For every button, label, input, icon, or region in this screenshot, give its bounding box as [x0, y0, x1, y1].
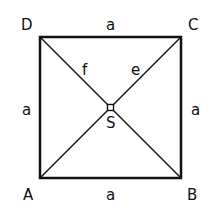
- square-diagram: D C A B a a a a f e S: [0, 0, 215, 218]
- side-label-bottom: a: [106, 186, 115, 204]
- vertex-label-d: D: [21, 16, 33, 34]
- side-label-left: a: [22, 101, 31, 119]
- side-label-right: a: [191, 101, 200, 119]
- diagonal-label-f: f: [82, 61, 88, 79]
- center-label-s: S: [106, 114, 116, 132]
- diagonal-e-upper: [114, 37, 182, 105]
- vertex-label-a: A: [23, 186, 34, 204]
- side-label-top: a: [106, 16, 115, 34]
- diagonal-label-e: e: [131, 61, 140, 79]
- center-point-marker: [108, 105, 114, 111]
- diagonal-e-lower: [40, 111, 108, 179]
- vertex-label-c: C: [188, 16, 198, 34]
- diagonal-f-lower: [114, 111, 182, 179]
- diagonal-f-upper: [40, 37, 108, 105]
- vertex-label-b: B: [187, 186, 197, 204]
